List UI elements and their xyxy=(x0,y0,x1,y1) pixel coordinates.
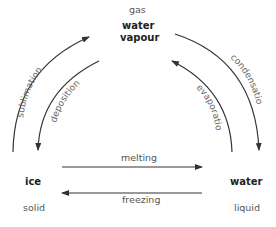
condensation-label: condensation xyxy=(0,0,265,106)
liquid-phase-label: liquid xyxy=(234,202,260,213)
ice-label: ice xyxy=(25,176,41,187)
gas-phase-label: gas xyxy=(129,4,146,15)
evaporation-label: evaporation xyxy=(0,0,224,132)
solid-phase-label: solid xyxy=(23,202,45,213)
freezing-label: freezing xyxy=(122,194,160,205)
condensation-arrow xyxy=(175,34,259,150)
evaporation-arrow xyxy=(172,61,232,152)
melting-label: melting xyxy=(121,152,157,163)
water-vapour-label-line2: vapour xyxy=(120,32,159,43)
water-label: water xyxy=(230,176,262,187)
sublimation-label: sublimation xyxy=(15,65,44,118)
deposition-arrow xyxy=(38,61,99,150)
water-vapour-label-line1: water xyxy=(122,20,154,31)
